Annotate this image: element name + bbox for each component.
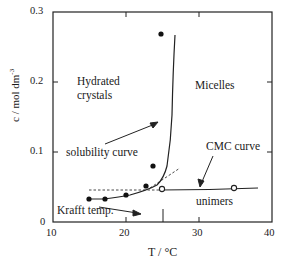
label-hydrated: Hydrated — [77, 76, 120, 88]
label-unimers: unimers — [196, 196, 233, 208]
label-krafft-temp: Krafft temp. — [57, 205, 114, 217]
x-axis-title: T / °C — [148, 246, 177, 258]
x-tick-40: 40 — [264, 228, 275, 239]
x-tick-20: 20 — [119, 228, 130, 239]
y-axis-title-exponent: -3 — [8, 69, 16, 75]
y-tick-0.2: 0.2 — [30, 76, 43, 87]
y-axis-title: c / mol dm-3 — [8, 69, 21, 122]
label-micelles: Micelles — [195, 80, 235, 92]
label-solubility-curve: solubility curve — [66, 147, 138, 159]
cmc-curve — [160, 188, 258, 190]
label-cmc-curve: CMC curve — [206, 141, 260, 153]
x-tick-10: 10 — [46, 228, 57, 239]
y-axis-title-text: c / mol dm — [9, 75, 21, 122]
x-tick-30: 30 — [192, 228, 203, 239]
solubility-curve — [89, 35, 175, 199]
y-tick-0.3: 0.3 — [30, 6, 43, 17]
cmc-points — [159, 185, 236, 191]
y-tick-0: 0 — [40, 217, 45, 228]
solubility-points — [86, 31, 163, 201]
label-crystals: crystals — [77, 90, 112, 102]
y-tick-0.1: 0.1 — [30, 146, 43, 157]
